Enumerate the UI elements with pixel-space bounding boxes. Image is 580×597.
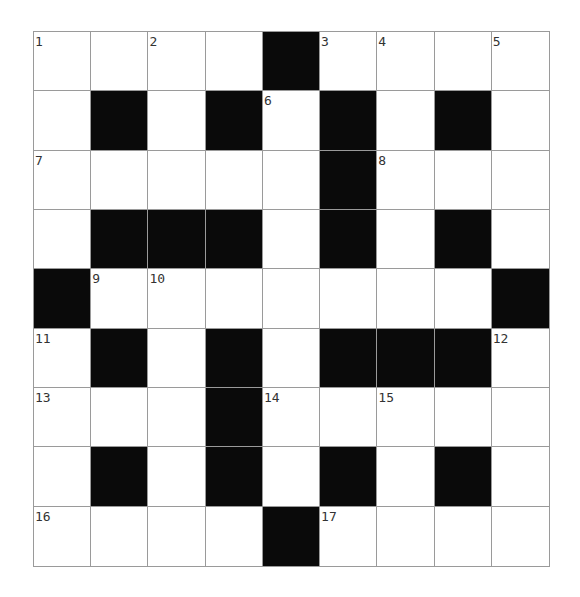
- clue-number: 16: [35, 510, 51, 523]
- black-square: [206, 329, 263, 388]
- answer-cell[interactable]: [206, 32, 263, 91]
- black-square: [320, 210, 377, 269]
- black-square: [435, 329, 492, 388]
- answer-cell[interactable]: [148, 329, 205, 388]
- clue-number: 5: [493, 35, 501, 48]
- clue-number: 7: [35, 154, 43, 167]
- answer-cell[interactable]: 10: [148, 269, 205, 328]
- clue-number: 4: [378, 35, 386, 48]
- black-square: [320, 447, 377, 506]
- answer-cell[interactable]: 13: [34, 388, 91, 447]
- answer-cell[interactable]: [377, 447, 434, 506]
- answer-cell[interactable]: [435, 507, 492, 566]
- answer-cell[interactable]: [492, 507, 549, 566]
- answer-cell[interactable]: 5: [492, 32, 549, 91]
- black-square: [91, 329, 148, 388]
- black-square: [206, 91, 263, 150]
- clue-number: 9: [92, 272, 100, 285]
- clue-number: 2: [149, 35, 157, 48]
- crossword-grid: 1234567891011121314151617: [33, 31, 550, 567]
- black-square: [320, 91, 377, 150]
- black-square: [91, 91, 148, 150]
- black-square: [91, 210, 148, 269]
- answer-cell[interactable]: [263, 210, 320, 269]
- answer-cell[interactable]: [148, 507, 205, 566]
- answer-cell[interactable]: 4: [377, 32, 434, 91]
- answer-cell[interactable]: [435, 269, 492, 328]
- clue-number: 1: [35, 35, 43, 48]
- answer-cell[interactable]: [91, 507, 148, 566]
- answer-cell[interactable]: [377, 210, 434, 269]
- clue-number: 3: [321, 35, 329, 48]
- answer-cell[interactable]: 16: [34, 507, 91, 566]
- answer-cell[interactable]: [148, 151, 205, 210]
- answer-cell[interactable]: 3: [320, 32, 377, 91]
- black-square: [206, 388, 263, 447]
- clue-number: 10: [149, 272, 165, 285]
- answer-cell[interactable]: [492, 447, 549, 506]
- answer-cell[interactable]: 17: [320, 507, 377, 566]
- black-square: [435, 210, 492, 269]
- answer-cell[interactable]: 9: [91, 269, 148, 328]
- clue-number: 13: [35, 391, 51, 404]
- answer-cell[interactable]: [492, 91, 549, 150]
- answer-cell[interactable]: [206, 269, 263, 328]
- answer-cell[interactable]: 6: [263, 91, 320, 150]
- clue-number: 12: [493, 332, 509, 345]
- answer-cell[interactable]: [377, 269, 434, 328]
- black-square: [492, 269, 549, 328]
- answer-cell[interactable]: [34, 210, 91, 269]
- answer-cell[interactable]: 2: [148, 32, 205, 91]
- clue-number: 8: [378, 154, 386, 167]
- answer-cell[interactable]: [34, 447, 91, 506]
- clue-number: 15: [378, 391, 394, 404]
- answer-cell[interactable]: [492, 151, 549, 210]
- answer-cell[interactable]: 8: [377, 151, 434, 210]
- answer-cell[interactable]: [91, 388, 148, 447]
- black-square: [320, 329, 377, 388]
- answer-cell[interactable]: [377, 507, 434, 566]
- answer-cell[interactable]: [263, 329, 320, 388]
- black-square: [148, 210, 205, 269]
- answer-cell[interactable]: 15: [377, 388, 434, 447]
- answer-cell[interactable]: [148, 91, 205, 150]
- answer-cell[interactable]: [263, 151, 320, 210]
- answer-cell[interactable]: [206, 151, 263, 210]
- answer-cell[interactable]: [206, 507, 263, 566]
- answer-cell[interactable]: 14: [263, 388, 320, 447]
- black-square: [320, 151, 377, 210]
- answer-cell[interactable]: [320, 269, 377, 328]
- answer-cell[interactable]: [148, 447, 205, 506]
- black-square: [263, 507, 320, 566]
- answer-cell[interactable]: [492, 388, 549, 447]
- answer-cell[interactable]: [263, 447, 320, 506]
- answer-cell[interactable]: [320, 388, 377, 447]
- answer-cell[interactable]: 12: [492, 329, 549, 388]
- black-square: [34, 269, 91, 328]
- clue-number: 6: [264, 94, 272, 107]
- answer-cell[interactable]: [435, 32, 492, 91]
- answer-cell[interactable]: 1: [34, 32, 91, 91]
- black-square: [206, 447, 263, 506]
- black-square: [263, 32, 320, 91]
- answer-cell[interactable]: [492, 210, 549, 269]
- answer-cell[interactable]: [263, 269, 320, 328]
- answer-cell[interactable]: 11: [34, 329, 91, 388]
- black-square: [377, 329, 434, 388]
- answer-cell[interactable]: [435, 388, 492, 447]
- answer-cell[interactable]: 7: [34, 151, 91, 210]
- answer-cell[interactable]: [91, 151, 148, 210]
- answer-cell[interactable]: [34, 91, 91, 150]
- clue-number: 11: [35, 332, 51, 345]
- clue-number: 17: [321, 510, 337, 523]
- black-square: [435, 91, 492, 150]
- clue-number: 14: [264, 391, 280, 404]
- answer-cell[interactable]: [435, 151, 492, 210]
- answer-cell[interactable]: [377, 91, 434, 150]
- answer-cell[interactable]: [148, 388, 205, 447]
- black-square: [91, 447, 148, 506]
- black-square: [435, 447, 492, 506]
- answer-cell[interactable]: [91, 32, 148, 91]
- black-square: [206, 210, 263, 269]
